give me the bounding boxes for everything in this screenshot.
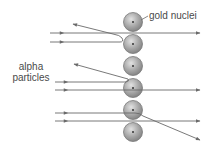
gold-nucleus: [124, 123, 143, 142]
alpha-particles-label: alpha particles: [8, 61, 54, 83]
gold-nucleus: [124, 101, 143, 120]
gold-nucleus: [124, 35, 143, 54]
alpha-path-reflected: [55, 64, 129, 82]
alpha-label-line2: particles: [8, 72, 54, 83]
gold-nuclei-column: [124, 13, 143, 142]
gold-nucleus: [124, 13, 143, 32]
gold-nucleus: [124, 57, 143, 76]
alpha-label-line1: alpha: [8, 61, 54, 72]
gold-nucleus: [124, 79, 143, 98]
gold-nuclei-label: gold nuclei: [149, 10, 197, 21]
